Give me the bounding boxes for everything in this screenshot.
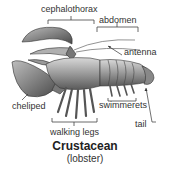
- label-cephalothorax: cephalothorax: [41, 4, 98, 14]
- label-cheliped: cheliped: [12, 101, 46, 111]
- label-swimmerets: swimmerets: [99, 100, 147, 110]
- upper-claw: [22, 27, 72, 44]
- label-antenna: antenna: [124, 47, 157, 57]
- label-tail: tail: [135, 119, 147, 129]
- label-abdomen: abdomen: [99, 15, 137, 25]
- label-walking-legs: walking legs: [50, 127, 99, 137]
- walking-legs-bracket: [52, 118, 97, 126]
- diagram-subtitle: (lobster): [0, 153, 170, 164]
- tail-pointer: [146, 88, 156, 122]
- walking-legs: [58, 88, 94, 118]
- cephalothorax-bracket: [48, 16, 94, 24]
- diagram-title: Crustacean: [0, 139, 170, 153]
- cheliped-pointer: [22, 94, 28, 100]
